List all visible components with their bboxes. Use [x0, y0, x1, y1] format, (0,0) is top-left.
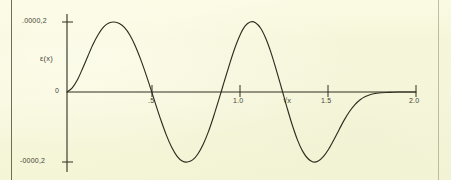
y-axis-label: ε(x): [40, 54, 53, 63]
x-tick-label-2-0: 2.0: [409, 97, 419, 104]
line-chart: [0, 0, 451, 180]
x-axis-label: √x: [283, 96, 291, 105]
x-tick-label-1-5: 1.5: [321, 97, 331, 104]
y-tick-label-positive: .0000,2: [22, 17, 47, 24]
figure-page: .0000,2 0 -0000,2 ε(x) .5 1.0 1.5 2.0 √x: [0, 0, 451, 180]
x-tick-label-0-5: .5: [148, 97, 154, 104]
y-tick-label-negative: -0000,2: [20, 157, 45, 164]
y-tick-label-zero: 0: [55, 87, 59, 94]
x-tick-label-1-0: 1.0: [233, 97, 243, 104]
